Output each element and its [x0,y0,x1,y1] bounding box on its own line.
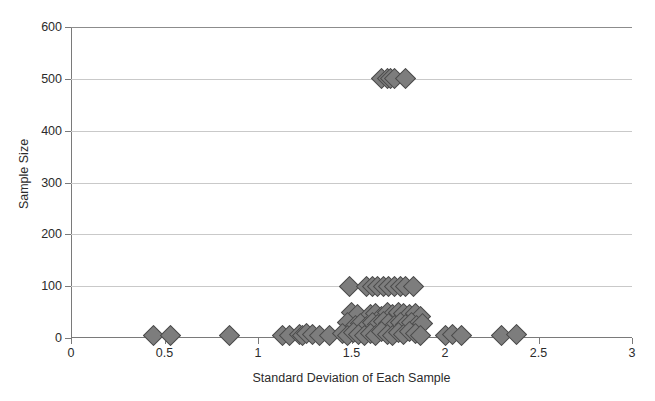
x-tick [258,338,259,344]
gridline [71,27,632,28]
x-tick-label: 2 [442,347,449,360]
y-tick-label: 100 [41,280,62,293]
gridline [71,79,632,80]
gridline [71,183,632,184]
y-tick [65,131,71,132]
y-tick [65,27,71,28]
x-tick-label: 2.5 [530,347,547,360]
y-tick-label: 400 [41,124,62,137]
x-tick [539,338,540,344]
data-point [160,325,181,346]
y-tick-label: 200 [41,228,62,241]
x-tick [71,338,72,344]
y-tick-label: 500 [41,73,62,86]
gridline [71,234,632,235]
data-point [505,324,526,345]
x-tick-label: 1.5 [343,347,360,360]
y-tick [65,183,71,184]
x-axis-title: Standard Deviation of Each Sample [71,371,632,385]
y-tick-label: 0 [55,332,62,345]
scatter-chart: 0100200300400500600 00.511.522.53 Standa… [0,0,655,401]
y-axis-title: Sample Size [17,19,35,330]
y-tick [65,286,71,287]
gridline [71,131,632,132]
x-tick-label: 0.5 [156,347,173,360]
y-tick-label: 600 [41,21,62,34]
x-tick-label: 0 [68,347,75,360]
y-tick-label: 300 [41,176,62,189]
data-point [219,325,240,346]
y-tick [65,234,71,235]
x-tick-label: 3 [629,347,636,360]
x-tick [632,338,633,344]
plot-area: 0100200300400500600 00.511.522.53 [71,27,632,338]
y-tick [65,79,71,80]
x-tick-label: 1 [255,347,262,360]
